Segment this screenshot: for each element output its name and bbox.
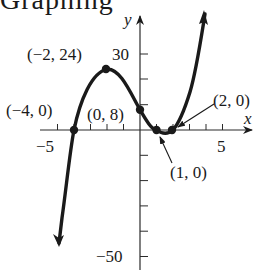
point-0-8: [136, 106, 144, 114]
point-1-0: [152, 126, 160, 134]
cubic-function-graph: −5 5 x 30 −50 y (−2, 24) (−4, 0) (0: [0, 0, 263, 275]
point-neg4-0: [70, 126, 78, 134]
point-neg2-24: [102, 65, 110, 73]
y-axis-label: y: [122, 10, 132, 29]
pointer-arrow-1-0: [160, 137, 172, 163]
y-tick-label-neg50: −50: [96, 247, 123, 266]
label-point-0-8: (0, 8): [87, 105, 124, 124]
y-axis-ticks: [140, 54, 148, 257]
x-axis-label: x: [243, 109, 252, 128]
y-tick-label-30: 30: [112, 45, 129, 64]
x-tick-label-5: 5: [217, 137, 226, 156]
label-point-neg2-24: (−2, 24): [27, 45, 82, 64]
label-point-neg4-0: (−4, 0): [6, 101, 52, 120]
label-point-1-0: (1, 0): [170, 163, 207, 182]
y-axis: 30 −50 y: [96, 10, 148, 270]
point-2-0: [168, 126, 176, 134]
label-point-2-0: (2, 0): [213, 91, 250, 110]
x-tick-label-neg5: −5: [36, 137, 54, 156]
